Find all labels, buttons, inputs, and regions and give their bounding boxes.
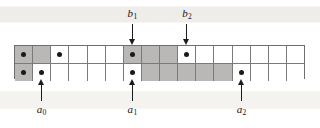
pointer-label-b1: b1	[128, 8, 137, 19]
dot-marker-icon	[21, 52, 26, 57]
bottom-row-cell-10	[196, 64, 214, 81]
arrow-head-icon	[129, 39, 135, 45]
bottom-row-cell-14	[269, 64, 287, 81]
pointer-label-a1: a1	[128, 104, 137, 115]
top-row-cell-12	[233, 46, 251, 63]
pointer-a2: a2	[226, 79, 256, 121]
arrow-head-icon	[129, 79, 135, 85]
bottom-row-cell-9	[178, 64, 196, 81]
top-row-cell-2	[51, 46, 69, 63]
grid-row-bottom	[15, 63, 304, 81]
dot-marker-icon	[184, 52, 189, 57]
bottom-row-cell-8	[160, 64, 178, 81]
dot-marker-icon	[239, 70, 244, 75]
pointer-a0: a0	[26, 79, 56, 121]
cell-grid	[14, 45, 305, 79]
top-row-cell-8	[160, 46, 178, 63]
arrow-shaft	[41, 84, 42, 101]
pointer-b1: b1	[117, 8, 147, 45]
bottom-row-cell-3	[69, 64, 87, 81]
pointer-a1: a1	[117, 79, 147, 121]
arrow-head-icon	[238, 79, 244, 85]
top-row-cell-5	[106, 46, 124, 63]
top-row-cell-1	[33, 46, 51, 63]
top-row-cell-10	[196, 46, 214, 63]
arrow-head-icon	[38, 79, 44, 85]
arrow-shaft	[241, 84, 242, 101]
top-row-cell-13	[251, 46, 269, 63]
top-row-cell-4	[88, 46, 106, 63]
dot-marker-icon	[130, 52, 135, 57]
array-diagram-figure: b1b2a0a1a2	[0, 0, 320, 128]
pointer-b2: b2	[172, 8, 202, 45]
pointer-label-b2: b2	[182, 8, 191, 19]
arrow-head-icon	[183, 39, 189, 45]
bottom-row-cell-15	[287, 64, 304, 81]
top-row-cell-7	[142, 46, 160, 63]
grid-row-top	[15, 46, 304, 63]
dot-marker-icon	[21, 70, 26, 75]
dot-marker-icon	[130, 70, 135, 75]
top-row-cell-15	[287, 46, 304, 63]
bottom-row-cell-4	[88, 64, 106, 81]
top-row-cell-14	[269, 46, 287, 63]
top-row-cell-9	[178, 46, 196, 63]
pointer-label-a2: a2	[237, 104, 246, 115]
dot-marker-icon	[39, 70, 44, 75]
top-row-cell-0	[15, 46, 33, 63]
top-row-cell-3	[69, 46, 87, 63]
arrow-shaft	[132, 84, 133, 101]
dot-marker-icon	[57, 52, 62, 57]
top-row-cell-6	[124, 46, 142, 63]
pointer-label-a0: a0	[37, 104, 46, 115]
top-row-cell-11	[214, 46, 232, 63]
